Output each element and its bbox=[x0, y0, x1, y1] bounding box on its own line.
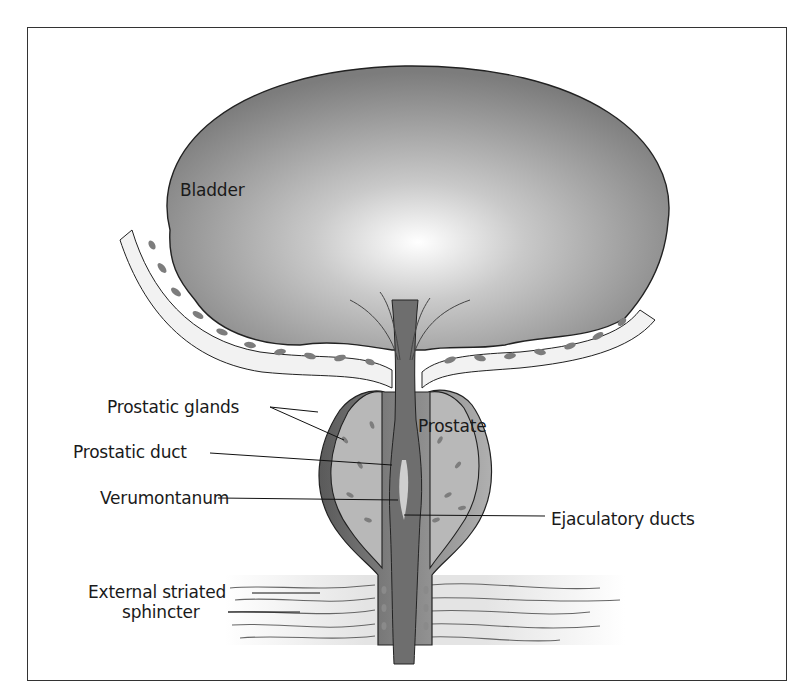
label-prostatic-duct: Prostatic duct bbox=[73, 442, 187, 462]
label-prostate: Prostate bbox=[418, 416, 486, 436]
bladder-shape bbox=[167, 66, 669, 350]
label-verumontanum: Verumontanum bbox=[100, 488, 229, 508]
label-ejaculatory-ducts: Ejaculatory ducts bbox=[551, 509, 695, 529]
label-external-striated: External striated bbox=[88, 582, 226, 602]
label-prostatic-glands: Prostatic glands bbox=[107, 397, 239, 417]
label-sphincter: sphincter bbox=[122, 602, 200, 622]
label-bladder: Bladder bbox=[180, 180, 244, 200]
